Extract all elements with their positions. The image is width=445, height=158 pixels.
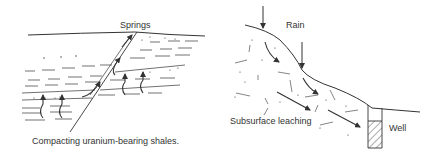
ground-surface-line [28,32,205,36]
left-panel-spring-diagram: Springs Compacting uranium-bearing shale… [22,20,205,146]
leaching-arrows [265,42,360,127]
diagram-canvas: Springs Compacting uranium-bearing shale… [0,0,445,158]
well-shaft [368,105,382,148]
caption-shales: Compacting uranium-bearing shales. [32,136,179,146]
subsurface-leaching-label: Subsurface leaching [230,116,312,126]
hillslope-surface [245,25,420,112]
rain-label: Rain [286,20,305,30]
well-label: Well [389,123,406,133]
fluid-flow-arrows [41,35,144,118]
right-panel-leaching-diagram: Rain Subsurface leaching Well [230,6,420,148]
springs-label: Springs [120,20,151,30]
strata-layers-left [22,65,112,120]
rock-fragments [235,45,358,125]
fault-line [70,32,137,132]
